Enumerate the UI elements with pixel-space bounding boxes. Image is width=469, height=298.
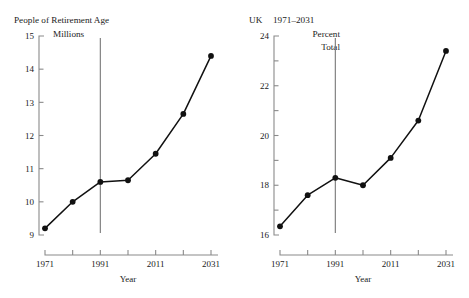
data-point-marker [180, 111, 186, 117]
data-point-marker [415, 118, 421, 124]
data-point-marker [388, 155, 394, 161]
y-axis-tick-label: 15 [25, 31, 35, 41]
x-axis-tick-label: 2031 [202, 259, 220, 269]
y-axis-tick-label: 12 [25, 131, 34, 141]
y-axis-tick-label: 22 [260, 81, 269, 91]
data-point-marker [97, 179, 103, 185]
chart-unit-label-primary: Percent [312, 29, 340, 39]
data-point-marker [305, 192, 311, 198]
y-axis-tick-label: 11 [25, 164, 34, 174]
y-axis-tick-label: 10 [25, 197, 35, 207]
y-axis-tick-label: 14 [25, 64, 35, 74]
chart-title: People of Retirement Age [14, 15, 109, 25]
data-point-marker [208, 53, 214, 59]
y-axis-tick-label: 9 [30, 230, 35, 240]
x-axis-tick-label: 2011 [147, 259, 165, 269]
chart-unit-label-secondary: Total [321, 42, 340, 52]
x-axis-line [280, 250, 453, 255]
x-axis-tick-label: 2011 [382, 259, 400, 269]
x-axis-tick-label: 2031 [437, 259, 455, 269]
chart-svg-right: UK1971–2031PercentTotal16182022241971199… [235, 0, 469, 298]
chart-panel-uk-percent-total: UK1971–2031PercentTotal16182022241971199… [235, 0, 469, 298]
y-axis-tick-label: 18 [260, 180, 270, 190]
data-point-marker [443, 48, 449, 54]
data-point-marker [70, 199, 76, 205]
x-axis-tick-label: 1971 [271, 259, 289, 269]
x-axis-tick-label: 1971 [36, 259, 54, 269]
data-point-marker [360, 182, 366, 188]
y-axis-tick-label: 16 [260, 230, 270, 240]
x-axis-line [45, 250, 218, 255]
data-point-marker [277, 223, 283, 229]
y-axis-tick-label: 24 [260, 31, 270, 41]
x-axis-title: Year [355, 274, 372, 284]
y-axis-tick-label: 20 [260, 131, 270, 141]
x-axis-tick-label: 1991 [91, 259, 109, 269]
chart-unit-label-primary: Millions [53, 29, 85, 39]
data-point-marker [125, 177, 131, 183]
x-axis-tick-label: 1991 [326, 259, 344, 269]
chart-svg-left: People of Retirement AgeMillions91011121… [0, 0, 234, 298]
x-axis-title: Year [120, 274, 137, 284]
data-point-marker [332, 175, 338, 181]
data-series-line [280, 51, 446, 226]
chart-panel-people-of-retirement-age: People of Retirement AgeMillions91011121… [0, 0, 234, 298]
chart-title-range: 1971–2031 [273, 15, 315, 25]
y-axis-tick-label: 13 [25, 98, 35, 108]
chart-title-prefix: UK [249, 15, 263, 25]
data-point-marker [153, 151, 159, 157]
data-point-marker [42, 225, 48, 231]
